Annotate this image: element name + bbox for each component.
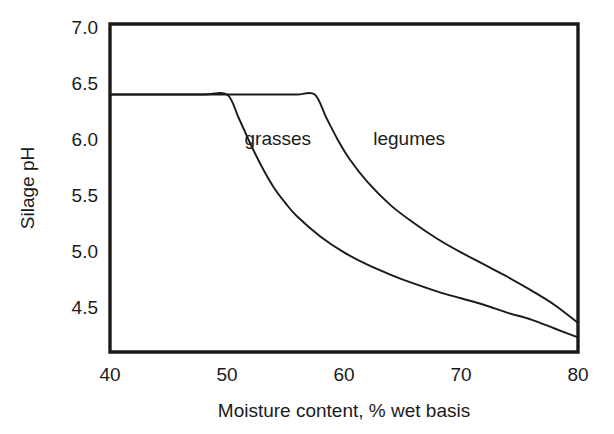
y-tick-label: 6.0 [50, 129, 98, 151]
plot-canvas [0, 0, 614, 434]
y-tick-label: 7.0 [50, 17, 98, 39]
x-tick-label: 60 [333, 364, 354, 386]
y-axis-title: Silage pH [17, 147, 39, 229]
x-tick-label: 50 [216, 364, 237, 386]
y-tick-label: 4.5 [50, 297, 98, 319]
chart-figure: 4.55.05.56.06.57.0 4050607080 grassesleg… [0, 0, 614, 434]
x-tick-label: 80 [567, 364, 588, 386]
chart-background [0, 0, 614, 434]
x-tick-label: 40 [99, 364, 120, 386]
y-tick-label: 5.0 [50, 241, 98, 263]
y-tick-label: 6.5 [50, 73, 98, 95]
x-tick-label: 70 [450, 364, 471, 386]
series-label-legumes: legumes [373, 128, 445, 150]
y-tick-label: 5.5 [50, 185, 98, 207]
series-label-grasses: grasses [245, 128, 312, 150]
x-axis-title: Moisture content, % wet basis [218, 400, 470, 422]
